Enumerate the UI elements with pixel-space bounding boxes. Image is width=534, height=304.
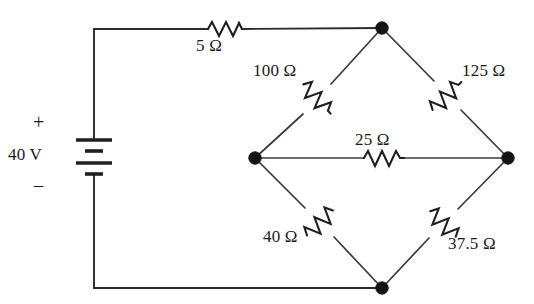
- resistor-25-ohm-zigzag: [364, 151, 404, 166]
- wire-right-to-bottom-b: [382, 238, 429, 288]
- source-polarity-minus-label: −: [33, 176, 44, 196]
- resistor-40-ohm-zigzag: [301, 205, 338, 242]
- source-polarity-plus-label: +: [33, 112, 44, 132]
- resistor-40-ohm-label: 40 Ω: [263, 228, 298, 245]
- resistor-125-ohm-label: 125 Ω: [462, 62, 505, 79]
- node-right: [502, 152, 514, 164]
- wire-left-to-bottom-b: [334, 237, 382, 288]
- wire-top-to-right-a: [382, 28, 434, 81]
- circuit-diagram: 5 Ω 100 Ω 125 Ω 25 Ω 40 Ω 37.5 Ω + 40 V …: [0, 0, 534, 304]
- wire-top-to-right-b: [461, 110, 508, 158]
- resistor-40-ohm: [301, 205, 338, 242]
- resistor-37.5-ohm-label: 37.5 Ω: [448, 235, 496, 252]
- wire-top-right: [242, 28, 382, 29]
- node-top: [376, 22, 388, 34]
- wire-top-to-left-b: [255, 114, 303, 158]
- node-left: [249, 152, 261, 164]
- wire-right-to-bottom-a: [458, 158, 508, 209]
- resistor-100-ohm-label: 100 Ω: [253, 62, 296, 79]
- source-voltage-label: 40 V: [8, 146, 42, 163]
- resistor-100-ohm: [298, 79, 337, 119]
- resistor-5-ohm-label: 5 Ω: [196, 37, 222, 54]
- battery-symbol: [76, 140, 112, 174]
- circuit-schematic-svg: [0, 0, 534, 304]
- resistor-25-ohm-label: 25 Ω: [355, 131, 390, 148]
- wire-top-to-left-a: [331, 28, 382, 84]
- node-bottom: [376, 282, 388, 294]
- wire-left-to-bottom-a: [255, 158, 305, 208]
- resistor-100-ohm-zigzag: [298, 79, 337, 119]
- resistor-5-ohm-zigzag: [208, 22, 242, 36]
